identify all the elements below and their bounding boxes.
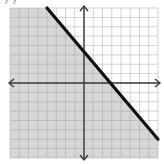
inequality-graph — [0, 0, 164, 164]
